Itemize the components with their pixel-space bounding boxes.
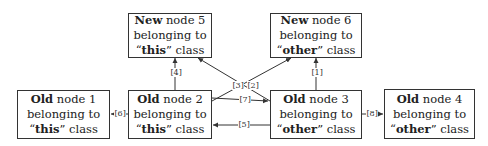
quote-close: ” (431, 122, 437, 136)
node-1: Old node 1 belonging to “this” class (17, 90, 110, 139)
node-6-class: other (282, 43, 317, 57)
node-3-num: node 3 (309, 92, 348, 106)
node-5-age: New (135, 13, 163, 27)
edge-label-5: [5] (238, 120, 250, 129)
node-3-class: other (282, 122, 317, 136)
node-5: New node 5 belonging to “this” class (128, 13, 212, 58)
edge-label-3: [3] (232, 81, 244, 90)
node-3: Old node 3 belonging to “other” class (270, 90, 362, 139)
node-6: New node 6 belonging to “other” class (270, 13, 362, 58)
node-1-num: node 1 (57, 92, 96, 106)
node-5-line2: belonging to (133, 28, 206, 43)
node-6-class-suffix: class (327, 43, 356, 57)
edge-label-8: [8] (366, 109, 378, 118)
node-1-age: Old (31, 92, 53, 106)
node-5-class-suffix: class (176, 43, 205, 57)
node-2-age: Old (137, 92, 159, 106)
node-4-line2: belonging to (393, 107, 466, 122)
node-3-line2: belonging to (279, 107, 352, 122)
edge-label-2: [2] (247, 81, 259, 90)
node-6-age: New (281, 13, 309, 27)
quote-close: ” (166, 43, 172, 57)
node-1-class: this (35, 122, 60, 136)
node-5-num: node 5 (166, 13, 205, 27)
quote-close: ” (317, 43, 323, 57)
node-4-class-suffix: class (440, 122, 469, 136)
node-4: Old node 4 belonging to “other” class (384, 89, 475, 139)
quote-close: ” (60, 122, 66, 136)
node-6-num: node 6 (312, 13, 351, 27)
node-5-class: this (142, 43, 167, 57)
node-3-class-suffix: class (327, 122, 356, 136)
node-4-num: node 4 (423, 92, 462, 106)
node-2-num: node 2 (163, 92, 202, 106)
node-4-age: Old (397, 92, 419, 106)
edge-label-1: [1] (311, 68, 323, 77)
edge-label-4: [4] (170, 68, 182, 77)
edge-label-6: [6] (114, 109, 126, 118)
node-2: Old node 2 belonging to “this” class (128, 90, 212, 139)
node-2-class: this (142, 122, 167, 136)
node-6-line2: belonging to (279, 28, 352, 43)
quote-close: ” (317, 122, 323, 136)
node-3-age: Old (283, 92, 305, 106)
node-1-class-suffix: class (69, 122, 98, 136)
node-2-class-suffix: class (176, 122, 205, 136)
node-1-line2: belonging to (27, 107, 100, 122)
node-4-class: other (396, 122, 431, 136)
node-2-line2: belonging to (133, 107, 206, 122)
quote-close: ” (166, 122, 172, 136)
edge-label-7: [7] (239, 95, 251, 104)
